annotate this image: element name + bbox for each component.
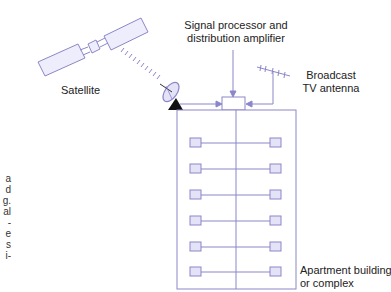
satellite-dish-icon	[160, 80, 183, 110]
cropped-line-4: al	[0, 206, 11, 217]
cropped-line-6: e	[0, 228, 11, 239]
cropped-line-5: -	[0, 217, 11, 228]
building-label-line1: Apartment building	[300, 264, 391, 277]
processor-label-line2: distribution amplifier	[171, 32, 301, 45]
antenna-label-line1: Broadcast	[296, 69, 366, 82]
processor-label-line1: Signal processor and	[171, 19, 301, 32]
cropped-line-3: g.	[0, 195, 11, 206]
signal-processor-box	[222, 97, 245, 110]
satellite-label: Satellite	[61, 84, 100, 97]
antenna-label: Broadcast TV antenna	[296, 69, 366, 95]
building-label-line2: or complex	[300, 277, 391, 290]
cropped-line-1: a	[0, 173, 11, 184]
processor-pointer-arrow	[230, 50, 236, 97]
antenna-label-line2: TV antenna	[296, 82, 366, 95]
processor-label: Signal processor and distribution amplif…	[171, 19, 301, 45]
antenna-feed-line	[246, 71, 273, 107]
cropped-line-2: d	[0, 184, 11, 195]
cropped-line-8: i-	[0, 250, 11, 261]
signal-waves-icon	[121, 48, 160, 79]
satellite-icon	[38, 18, 148, 76]
satellite-distribution-diagram: Satellite Signal processor and distribut…	[0, 0, 391, 292]
cropped-line-7: s	[0, 239, 11, 250]
dish-feed-line	[180, 101, 222, 107]
building-label: Apartment building or complex	[300, 264, 391, 290]
